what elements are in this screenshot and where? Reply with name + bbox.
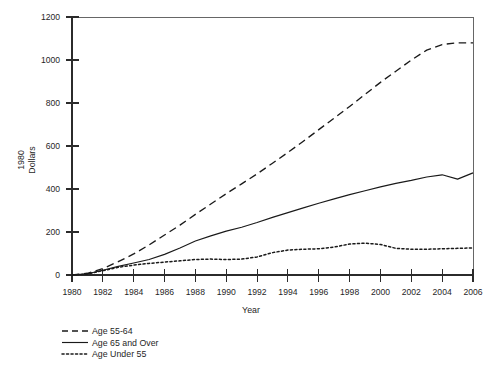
series-line-age-65-and-over: [72, 173, 473, 275]
x-tick-label: 1980: [62, 287, 81, 297]
y-tick-label: 200: [46, 227, 61, 237]
y-tick-label: 600: [46, 141, 61, 151]
x-tick-label: 2004: [433, 287, 452, 297]
y-tick-label: 0: [55, 270, 60, 280]
series-line-age-under-55: [72, 243, 473, 275]
x-tick-label: 2002: [402, 287, 421, 297]
line-chart: 020040060080010001200 1980 Dollars 19801…: [0, 0, 496, 370]
x-axis: 1980198219841986198819901992199419961998…: [62, 269, 482, 315]
y-axis: 020040060080010001200 1980 Dollars: [16, 12, 79, 280]
chart-figure: 020040060080010001200 1980 Dollars 19801…: [0, 0, 496, 370]
legend-label-age-under-55: Age Under 55: [92, 349, 146, 359]
x-tick-label: 1996: [309, 287, 328, 297]
chart-legend: Age 55-64Age 65 and OverAge Under 55: [62, 326, 159, 359]
x-tick-label: 1988: [186, 287, 205, 297]
x-tick-label: 1994: [278, 287, 297, 297]
legend-label-age-55-64: Age 55-64: [92, 326, 133, 336]
y-tick-label: 800: [46, 98, 61, 108]
y-axis-title-line1: 1980: [16, 150, 26, 170]
y-axis-title-line2: Dollars: [27, 146, 37, 174]
x-tick-label: 1984: [124, 287, 143, 297]
x-tick-label: 1998: [340, 287, 359, 297]
x-tick-label: 2006: [463, 287, 482, 297]
y-tick-group: 020040060080010001200: [41, 12, 79, 280]
y-tick-label: 1000: [41, 55, 60, 65]
series-line-age-55-64: [72, 43, 473, 275]
x-tick-label: 1986: [155, 287, 174, 297]
x-tick-label: 2000: [371, 287, 390, 297]
y-axis-title: 1980 Dollars: [16, 146, 37, 174]
plot-frame: [72, 17, 473, 275]
series-group: [72, 43, 473, 275]
y-tick-label: 1200: [41, 12, 60, 22]
x-axis-title: Year: [242, 305, 260, 315]
x-tick-group: 1980198219841986198819901992199419961998…: [62, 269, 482, 297]
x-tick-label: 1990: [217, 287, 236, 297]
y-tick-label: 400: [46, 184, 61, 194]
legend-label-age-65-and-over: Age 65 and Over: [92, 338, 159, 348]
x-tick-label: 1992: [248, 287, 267, 297]
x-tick-label: 1982: [93, 287, 112, 297]
